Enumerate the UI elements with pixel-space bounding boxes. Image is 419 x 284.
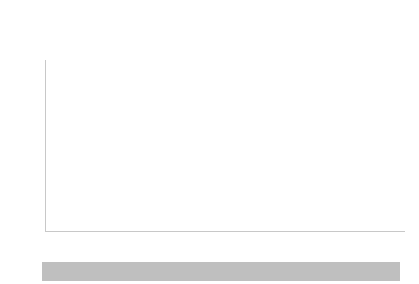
chart-legend — [0, 25, 419, 33]
legend-swatch-2013 — [227, 25, 235, 33]
legend-swatch-2014 — [180, 25, 188, 33]
x-axis-line — [45, 231, 405, 232]
bar-groups — [46, 60, 405, 231]
plot-area — [45, 60, 405, 232]
section-band — [42, 262, 400, 281]
legend-item-2014 — [180, 25, 193, 33]
petrol-consumption-chart — [0, 0, 419, 284]
legend-item-2013 — [227, 25, 240, 33]
